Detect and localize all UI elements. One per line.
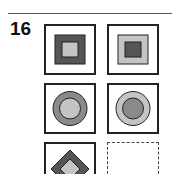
grid-cell: [44, 142, 96, 174]
grid-cell: [107, 24, 159, 75]
grid-cell: [107, 83, 159, 134]
nested-diamond-icon: [46, 144, 94, 174]
top-divider: [8, 13, 172, 14]
nested-square-icon: [109, 26, 157, 73]
problem-number: 16: [10, 19, 31, 38]
answer-slot[interactable]: [107, 142, 159, 174]
inner-circle: [123, 98, 144, 119]
grid-cell: [44, 24, 96, 75]
nested-circle-icon: [46, 85, 94, 132]
inner-circle: [60, 98, 81, 119]
nested-square-icon: [46, 26, 94, 73]
nested-circle-icon: [109, 85, 157, 132]
grid-cell: [44, 83, 96, 134]
inner-square: [62, 42, 78, 57]
inner-square: [125, 42, 141, 57]
